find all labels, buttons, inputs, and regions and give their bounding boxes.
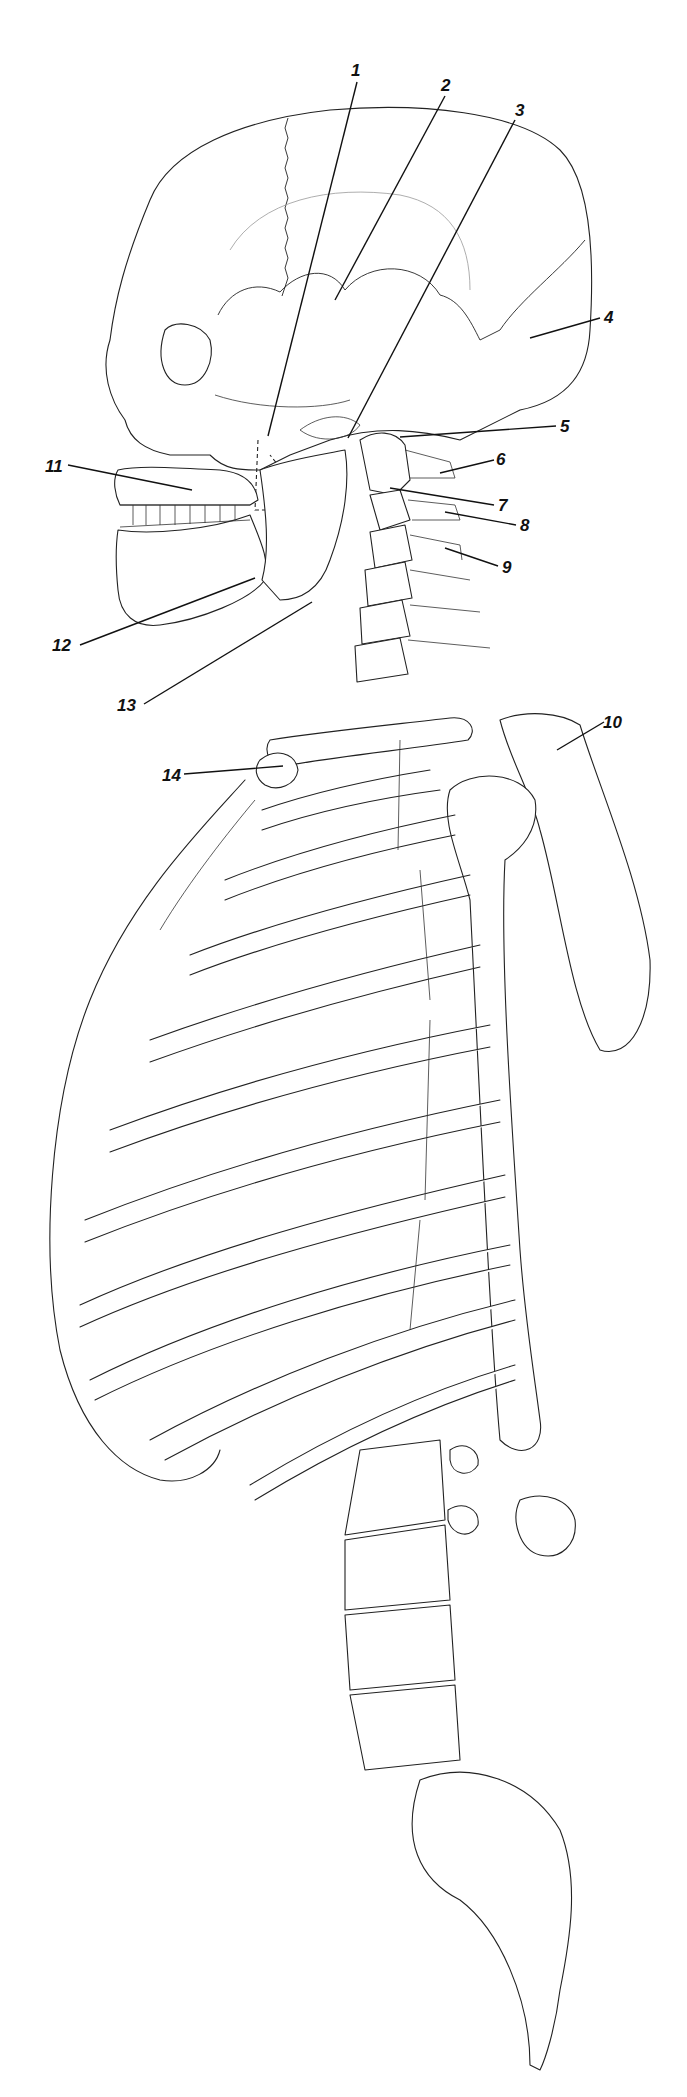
label-2: 2 <box>441 77 450 94</box>
skeleton-drawing <box>0 0 687 2097</box>
lumbar-spine-sacrum <box>345 1440 575 2070</box>
label-11: 11 <box>45 458 63 475</box>
cervical-spine <box>355 433 490 682</box>
skull <box>106 107 592 625</box>
label-9: 9 <box>502 559 511 576</box>
ribcage <box>50 740 515 1500</box>
label-8: 8 <box>520 517 529 534</box>
label-14: 14 <box>162 767 181 784</box>
label-10: 10 <box>603 714 622 731</box>
label-7: 7 <box>498 497 507 514</box>
anatomy-diagram: 1 2 3 4 5 6 7 8 9 10 11 12 13 14 <box>0 0 687 2097</box>
label-12: 12 <box>52 637 71 654</box>
label-13: 13 <box>117 697 136 714</box>
label-5: 5 <box>560 418 569 435</box>
label-4: 4 <box>604 309 613 326</box>
label-3: 3 <box>515 102 524 119</box>
label-1: 1 <box>351 62 360 79</box>
leader-line-9 <box>445 548 498 566</box>
label-6: 6 <box>496 451 505 468</box>
leader-line-7 <box>390 488 494 505</box>
leader-line-6 <box>440 460 494 473</box>
